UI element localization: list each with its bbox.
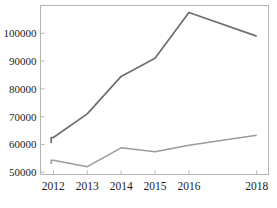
y-axis-tick-label: 70000 <box>9 111 37 122</box>
chart-plot-area <box>0 0 277 208</box>
line-chart: 1000009000080000700006000050000 20122013… <box>0 0 277 208</box>
x-axis-tick-marks <box>53 171 256 175</box>
x-axis-tick-label: 2012 <box>42 181 65 193</box>
y-axis-tick-label: 50000 <box>9 167 37 178</box>
lower-series-line <box>51 135 256 166</box>
x-axis-tick-label: 2018 <box>245 181 268 193</box>
y-axis-tick-label: 60000 <box>9 139 37 150</box>
x-axis-tick-label: 2016 <box>177 181 200 193</box>
upper-series-line <box>51 12 256 143</box>
plot-frame <box>41 6 269 175</box>
x-axis-tick-label: 2015 <box>144 181 167 193</box>
x-axis-tick-label: 2013 <box>76 181 99 193</box>
figure-caption <box>0 200 277 208</box>
y-axis-tick-label: 100000 <box>4 28 37 39</box>
x-axis-tick-label: 2014 <box>110 181 133 193</box>
y-axis-tick-label: 90000 <box>9 56 37 67</box>
y-axis-tick-label: 80000 <box>9 83 37 94</box>
y-axis-tick-marks <box>41 33 45 172</box>
